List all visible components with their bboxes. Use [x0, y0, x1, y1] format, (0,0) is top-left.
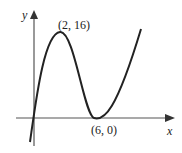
x-axis-label: x [167, 125, 172, 137]
cubic-curve [30, 29, 141, 142]
y-axis-label: y [22, 9, 27, 21]
x-axis-arrow-icon [165, 114, 175, 122]
min-point-label: (6, 0) [91, 124, 117, 136]
max-point-label: (2, 16) [58, 19, 90, 31]
y-axis-arrow-icon [30, 10, 38, 19]
